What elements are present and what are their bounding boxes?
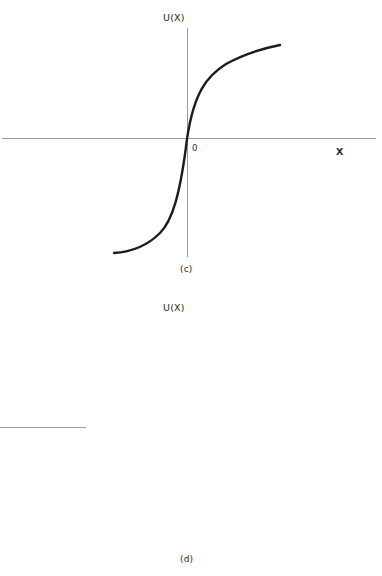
x-axis-label-c: X: [336, 147, 344, 157]
chart-d-canvas: [0, 290, 382, 576]
y-axis-label-c: U(X): [163, 13, 185, 23]
panel-caption-d: (d): [180, 555, 193, 564]
origin-label-c: 0: [192, 144, 198, 153]
y-axis-label-d: U(X): [163, 303, 185, 313]
chart-panel-d: U(X) X 0 (d): [0, 290, 382, 576]
panel-caption-c: (c): [180, 265, 193, 274]
chart-panel-c: U(X) X 0 (c): [0, 0, 382, 290]
chart-c-canvas: [0, 0, 382, 290]
figure-page: U(X) X 0 (c) U(X) X 0 (d): [0, 0, 382, 576]
